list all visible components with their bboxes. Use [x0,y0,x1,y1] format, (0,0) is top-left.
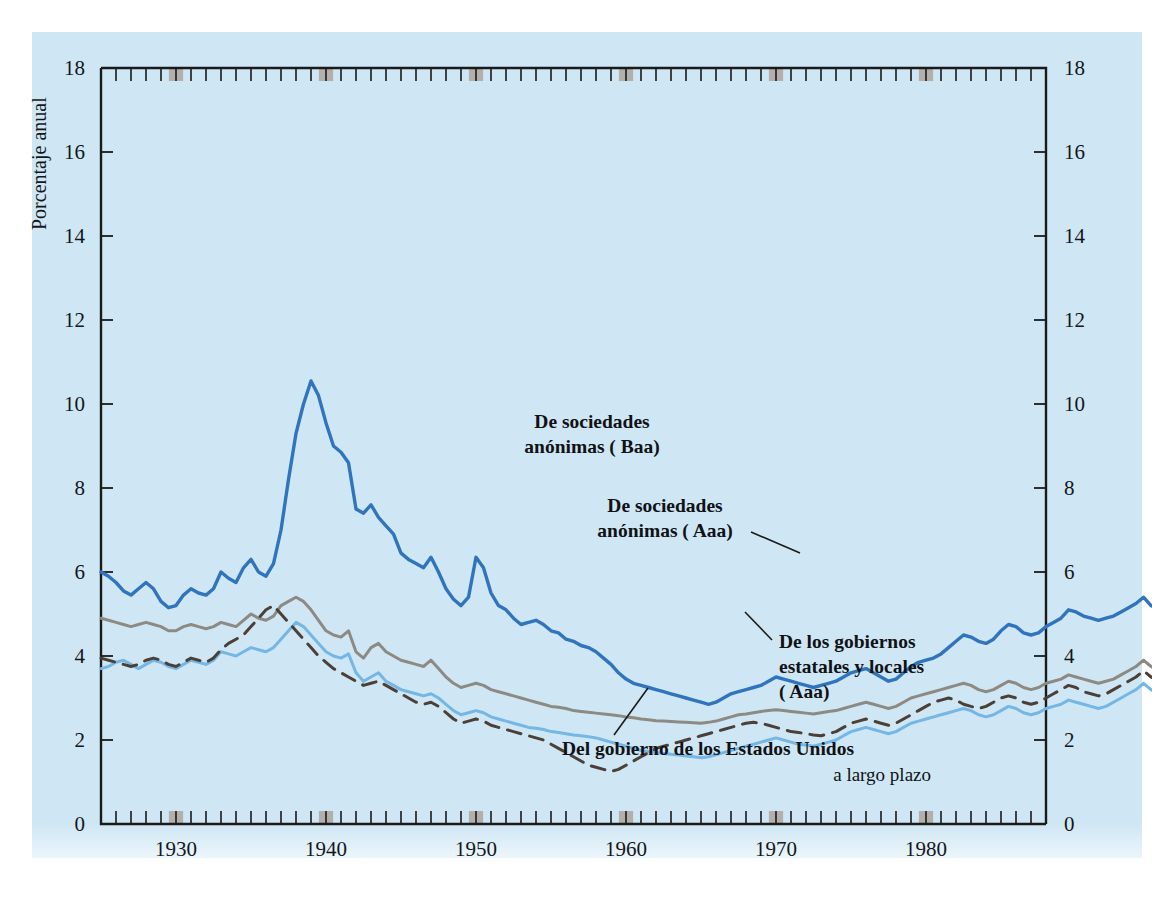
y-tick-label-right: 8 [1064,476,1075,500]
x-tick-label: 1970 [755,837,797,861]
y-tick-label-right: 4 [1064,644,1075,668]
annotation-state-local-line2: estatales y locales [779,656,925,677]
series-path-2 [101,211,1152,758]
annotation-baa-line2: anónimas ( Baa) [524,436,659,458]
annotation-state-local-line1: De los gobiernos [779,631,916,652]
y-tick-label-left: 4 [75,644,86,668]
annotation-us-government-leader-line [614,688,648,735]
x-tick-label: 1930 [155,837,197,861]
annotation-us-government-line2: a largo plazo [833,764,931,785]
y-tick-label-right: 18 [1064,56,1085,80]
x-axis-tick-labels: 193019401950196019701980 [155,837,947,861]
y-tick-label-left: 6 [75,560,86,584]
x-tick-label: 1980 [905,837,947,861]
series-path-0 [101,100,1152,705]
y-tick-label-left: 12 [64,308,85,332]
annotation-baa-line1: De sociedades [534,411,650,432]
y-tick-label-left: 18 [64,56,85,80]
y-tick-label-left: 8 [75,476,86,500]
annotation-state-local: De los gobiernos estatales y locales ( A… [745,612,925,703]
y-axis-tick-labels-left: 024681012141618 [64,56,86,836]
y-tick-label-right: 16 [1064,140,1085,164]
y-tick-label-right: 10 [1064,392,1085,416]
annotation-baa: De sociedades anónimas ( Baa) [524,411,659,458]
y-tick-label-left: 2 [75,728,86,752]
y-tick-label-right: 12 [1064,308,1085,332]
annotation-aaa-leader-line [751,532,800,553]
annotation-state-local-leader-line [745,612,772,640]
y-axis-tick-labels-right: 024681012141618 [1064,56,1086,836]
figure-root: 024681012141618 024681012141618 19301940… [0,0,1152,905]
interest-rates-line-chart: 024681012141618 024681012141618 19301940… [0,0,1152,905]
y-tick-label-right: 0 [1064,812,1075,836]
annotation-aaa-line2: anónimas ( Aaa) [597,520,732,542]
annotation-state-local-line3: ( Aaa) [779,681,829,703]
x-tick-label: 1940 [305,837,347,861]
y-tick-label-left: 16 [64,140,85,164]
y-tick-label-left: 14 [64,224,86,248]
annotation-aaa: De sociedades anónimas ( Aaa) [597,495,800,553]
x-tick-label: 1950 [455,837,497,861]
y-tick-label-left: 10 [64,392,85,416]
series-path-3 [101,316,1152,772]
y-tick-label-right: 2 [1064,728,1075,752]
annotation-aaa-line1: De sociedades [607,495,723,516]
y-axis-title: Porcentaje anual [28,97,51,230]
y-tick-label-right: 6 [1064,560,1075,584]
y-tick-label-right: 14 [1064,224,1086,248]
y-tick-label-left: 0 [75,812,86,836]
annotation-us-government-line1: Del gobierno de los Estados Unidos [562,738,854,759]
x-tick-label: 1960 [605,837,647,861]
